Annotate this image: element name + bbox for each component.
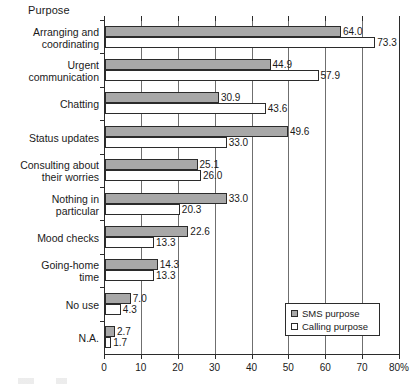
y-axis-tick: [100, 187, 105, 188]
bar-value-label: 13.3: [156, 237, 175, 248]
category-label: Going-hometime: [0, 259, 99, 283]
x-axis-tick: [252, 354, 253, 359]
x-axis-tick-label: 40: [246, 362, 257, 373]
bar-value-label: 43.6: [268, 103, 287, 114]
bar-sms-purpose: [105, 326, 115, 337]
y-axis-tick: [100, 20, 105, 21]
x-axis-tick-label: 60: [320, 362, 331, 373]
bar-value-label: 30.9: [221, 92, 240, 103]
bar-value-label: 44.9: [273, 59, 292, 70]
cropped-caption-artifact: [18, 378, 108, 384]
x-axis-tick: [325, 354, 326, 359]
y-axis-tick: [100, 154, 105, 155]
category-label-line: particular: [0, 205, 99, 217]
x-axis-tick-label: 70: [357, 362, 368, 373]
category-label-line: Status updates: [0, 132, 99, 144]
category-label: Arranging andcoordinating: [0, 26, 99, 50]
bar-sms-purpose: [105, 92, 219, 103]
category-label: No use: [0, 299, 99, 311]
chart-legend: SMS purposeCalling purpose: [285, 303, 380, 336]
bar-value-label: 1.7: [113, 337, 127, 348]
bar-sms-purpose: [105, 26, 341, 37]
x-axis-tick: [141, 354, 142, 359]
bar-value-label: 7.0: [133, 293, 147, 304]
bar-value-label: 33.0: [229, 137, 248, 148]
x-axis-tick-label: 80%: [389, 362, 409, 373]
x-axis-tick-label: 50: [283, 362, 294, 373]
category-label-line: No use: [0, 299, 99, 311]
legend-item: SMS purpose: [291, 307, 379, 320]
y-axis-tick: [100, 53, 105, 54]
category-label-line: communication: [0, 71, 99, 83]
bar-sms-purpose: [105, 293, 131, 304]
bar-calling-purpose: [105, 37, 375, 48]
bar-value-label: 64.0: [343, 26, 362, 37]
category-label-line: time: [0, 271, 99, 283]
x-axis-tick: [399, 354, 400, 359]
bar-value-label: 4.3: [123, 304, 137, 315]
category-label-line: their worries: [0, 171, 99, 183]
category-label: N.A.: [0, 332, 99, 344]
legend-item-label: SMS purpose: [302, 308, 360, 319]
bar-calling-purpose: [105, 170, 201, 181]
bar-value-label: 22.6: [190, 226, 209, 237]
bar-value-label: 73.3: [377, 37, 396, 48]
bar-group: Arranging andcoordinating64.073.3: [104, 20, 400, 53]
bar-value-label: 57.9: [321, 70, 340, 81]
bar-group: Mood checks22.613.3: [104, 220, 400, 253]
category-label-line: Consulting about: [0, 159, 99, 171]
bar-calling-purpose: [105, 270, 154, 281]
bar-group: Status updates49.633.0: [104, 120, 400, 153]
bar-calling-purpose: [105, 237, 154, 248]
x-axis-tick: [288, 354, 289, 359]
category-label-line: Nothing in: [0, 193, 99, 205]
category-label: Status updates: [0, 132, 99, 144]
bar-sms-purpose: [105, 193, 227, 204]
bar-value-label: 33.0: [229, 193, 248, 204]
bar-value-label: 49.6: [290, 126, 309, 137]
bar-value-label: 26.0: [203, 170, 222, 181]
category-label-line: Chatting: [0, 98, 99, 110]
category-label: Mood checks: [0, 232, 99, 244]
y-axis-tick: [100, 220, 105, 221]
bar-calling-purpose: [105, 337, 111, 348]
category-label-line: Arranging and: [0, 26, 99, 38]
bar-value-label: 13.3: [156, 270, 175, 281]
bar-sms-purpose: [105, 226, 188, 237]
x-axis-tick-label: 30: [209, 362, 220, 373]
bar-value-label: 20.3: [182, 204, 201, 215]
x-axis-tick-label: 10: [135, 362, 146, 373]
bar-value-label: 2.7: [117, 326, 131, 337]
x-axis-tick-label: 20: [172, 362, 183, 373]
x-axis-tick: [104, 354, 105, 359]
y-axis-tick: [100, 287, 105, 288]
bar-calling-purpose: [105, 103, 266, 114]
bar-group: Consulting abouttheir worries25.126.0: [104, 154, 400, 187]
bar-group: Urgentcommunication44.957.9: [104, 53, 400, 86]
bar-value-label: 25.1: [200, 159, 219, 170]
category-label: Nothing inparticular: [0, 193, 99, 217]
filled-gray-square-icon: [291, 310, 298, 317]
x-axis-tick: [215, 354, 216, 359]
category-label-line: N.A.: [0, 332, 99, 344]
bar-value-label: 14.3: [160, 259, 179, 270]
bar-sms-purpose: [105, 126, 288, 137]
bar-calling-purpose: [105, 70, 319, 81]
y-axis-tick: [100, 254, 105, 255]
x-axis-tick: [178, 354, 179, 359]
category-label: Chatting: [0, 98, 99, 110]
x-axis-tick: [362, 354, 363, 359]
bar-group: Nothing inparticular33.020.3: [104, 187, 400, 220]
bar-calling-purpose: [105, 304, 121, 315]
chart-figure: Purpose 01020304050607080% Arranging and…: [0, 0, 410, 388]
bar-sms-purpose: [105, 159, 198, 170]
bar-calling-purpose: [105, 137, 227, 148]
y-axis-tick: [100, 87, 105, 88]
bar-sms-purpose: [105, 259, 158, 270]
y-axis-tick: [100, 321, 105, 322]
category-label-line: Urgent: [0, 59, 99, 71]
category-label-line: Mood checks: [0, 232, 99, 244]
legend-item-label: Calling purpose: [302, 321, 368, 332]
category-label: Urgentcommunication: [0, 59, 99, 83]
category-label-line: coordinating: [0, 38, 99, 50]
